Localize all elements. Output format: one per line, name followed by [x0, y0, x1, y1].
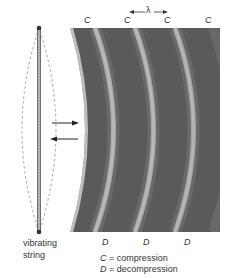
source-caption: vibrating string [23, 238, 57, 260]
legend-item-compression: C = compression [100, 253, 178, 264]
compression-label: C [124, 15, 131, 25]
wavelength-label: λ [146, 5, 151, 15]
string-bottom-anchor [37, 230, 42, 235]
source-caption-line2: string [23, 250, 57, 260]
legend-item-decompression: D = decompression [100, 264, 178, 275]
legend-text: = compression [107, 253, 168, 263]
sound-wave-diagram [0, 0, 231, 278]
decompression-label: D [184, 237, 191, 247]
compression-label: C [84, 15, 91, 25]
legend-text: = decompression [107, 264, 178, 274]
source-caption-line1: vibrating [23, 238, 57, 248]
compression-label: C [205, 15, 212, 25]
string-top-anchor [37, 26, 42, 31]
string [37, 26, 42, 235]
compression-label: C [164, 15, 171, 25]
legend: C = compression D = decompression [100, 253, 178, 275]
decompression-label: D [102, 237, 109, 247]
decompression-label: D [143, 237, 150, 247]
wave-panel [60, 28, 231, 232]
left-arrow-icon [50, 137, 78, 142]
